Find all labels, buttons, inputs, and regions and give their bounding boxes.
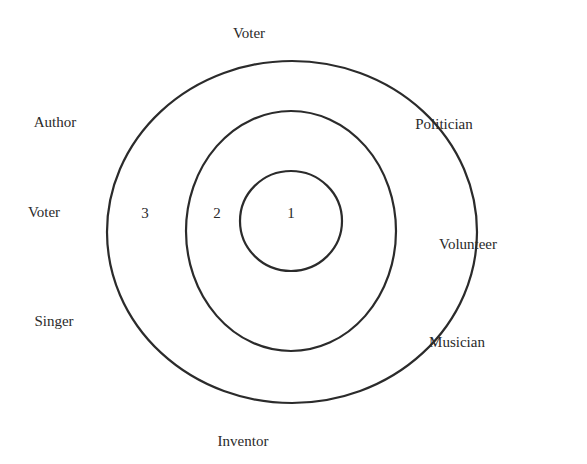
label-musician: Musician	[429, 334, 485, 351]
ring-2-middle	[186, 111, 396, 351]
label-top-voter: Voter	[233, 25, 265, 42]
concentric-circles	[0, 0, 587, 464]
label-singer: Singer	[34, 313, 73, 330]
label-inventor: Inventor	[218, 433, 269, 450]
ring-number-1: 1	[287, 205, 295, 222]
label-left-voter: Voter	[28, 204, 60, 221]
label-volunteer: Volunteer	[439, 236, 497, 253]
label-author: Author	[34, 114, 77, 131]
ring-number-2: 2	[213, 205, 221, 222]
ring-number-3: 3	[141, 205, 149, 222]
label-politician: Politician	[415, 116, 473, 133]
